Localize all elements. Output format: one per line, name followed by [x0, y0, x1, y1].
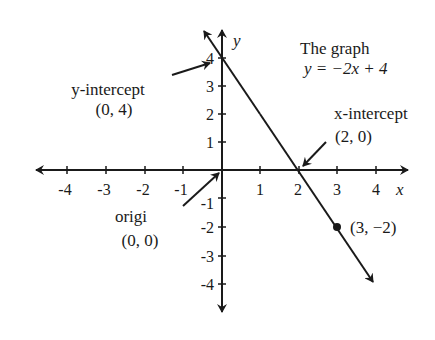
graph-title: The graph — [300, 39, 370, 58]
y-tick-label: -4 — [201, 276, 214, 293]
x-tick-label: -4 — [58, 181, 71, 198]
point-marker — [333, 223, 341, 231]
y-tick-label: -3 — [201, 248, 214, 265]
graph-canvas: -4 -3 -2 -1 1 2 3 4 x 4 3 2 1 -1 -2 -3 -… — [0, 0, 435, 340]
x-intercept-label: x-intercept — [334, 104, 408, 123]
y-tick-label: -2 — [201, 219, 214, 236]
origin-label: origi — [115, 207, 147, 226]
point-label: (3, −2) — [350, 218, 396, 237]
y-intercept-arrow — [172, 63, 210, 75]
y-intercept-point: (0, 4) — [96, 100, 133, 119]
x-tick-labels: -4 -3 -2 -1 1 2 3 4 — [58, 181, 380, 198]
x-tick-label: 3 — [333, 181, 341, 198]
x-intercept-arrow — [303, 142, 326, 166]
y-intercept-label: y-intercept — [71, 80, 145, 99]
x-tick-label: -3 — [97, 181, 110, 198]
y-tick-label: 2 — [206, 106, 214, 123]
x-intercept-point: (2, 0) — [335, 127, 372, 146]
y-tick-label: 3 — [206, 78, 214, 95]
y-tick-label: 1 — [206, 134, 214, 151]
x-tick-label: 4 — [372, 181, 380, 198]
x-tick-label: -1 — [174, 181, 187, 198]
y-tick-label: 4 — [206, 50, 214, 67]
x-tick-label: 1 — [256, 181, 264, 198]
graph-equation: y = −2x + 4 — [302, 59, 388, 78]
x-tick-label: -2 — [136, 181, 149, 198]
y-axis-label: y — [231, 31, 241, 50]
x-axis-label: x — [395, 180, 404, 199]
y-tick-label: -1 — [201, 195, 214, 212]
y-tick-labels: 4 3 2 1 -1 -2 -3 -4 — [201, 50, 214, 293]
x-tick-label: 2 — [294, 181, 302, 198]
origin-point: (0, 0) — [122, 231, 159, 250]
